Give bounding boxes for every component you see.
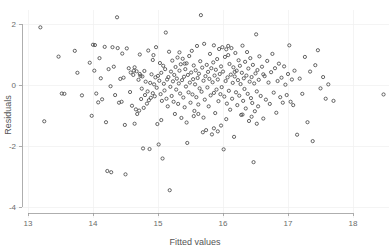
data-point <box>259 94 262 97</box>
data-point <box>173 112 176 115</box>
data-point <box>293 69 296 72</box>
y-tick-label: -2 <box>9 142 17 151</box>
x-tick-label: 17 <box>284 219 293 228</box>
data-point <box>238 94 241 97</box>
data-point <box>253 110 256 113</box>
data-point <box>246 92 249 95</box>
data-point <box>168 189 171 192</box>
data-point <box>164 31 167 34</box>
data-point <box>273 67 276 70</box>
data-point <box>179 63 182 66</box>
data-point <box>247 119 250 122</box>
data-point <box>76 71 79 74</box>
data-point <box>232 135 235 138</box>
data-point <box>215 88 218 91</box>
data-point <box>180 79 183 82</box>
data-point <box>160 71 163 74</box>
data-point <box>111 46 114 49</box>
data-point <box>177 102 180 105</box>
data-point <box>298 77 301 80</box>
data-point <box>197 112 200 115</box>
data-point <box>182 75 185 78</box>
data-point <box>324 97 327 100</box>
data-point <box>138 109 141 112</box>
data-point <box>137 78 140 81</box>
data-point <box>157 143 160 146</box>
data-point <box>223 55 226 58</box>
data-point <box>233 75 236 78</box>
data-point <box>257 105 260 108</box>
data-point <box>154 46 157 49</box>
data-point <box>112 65 115 68</box>
data-point <box>133 66 136 69</box>
data-point <box>177 82 180 85</box>
data-point <box>248 80 251 83</box>
data-point <box>234 91 237 94</box>
data-point <box>148 147 151 150</box>
data-point <box>216 130 219 133</box>
data-point <box>207 105 210 108</box>
data-point <box>145 102 148 105</box>
data-point <box>242 99 245 102</box>
data-point <box>152 54 155 57</box>
data-point <box>142 106 145 109</box>
data-point <box>179 92 182 95</box>
data-point <box>309 70 312 73</box>
data-point <box>270 71 273 74</box>
data-point <box>236 104 239 107</box>
data-point <box>226 76 229 79</box>
data-point <box>255 122 258 125</box>
data-point <box>185 121 188 124</box>
data-point <box>110 171 113 174</box>
data-point <box>256 68 259 71</box>
data-point <box>115 16 118 19</box>
data-point <box>271 52 274 55</box>
data-point <box>196 76 199 79</box>
data-point <box>212 61 215 64</box>
data-point <box>205 63 208 66</box>
data-point <box>57 55 60 58</box>
data-point <box>178 51 181 54</box>
data-point <box>174 65 177 68</box>
data-point <box>132 73 135 76</box>
x-tick-label: 15 <box>154 219 163 228</box>
x-axis-label: Fitted values <box>169 237 221 247</box>
data-point <box>80 94 83 97</box>
data-point <box>216 78 219 81</box>
data-point <box>206 70 209 73</box>
data-point <box>199 60 202 63</box>
data-point <box>156 122 159 125</box>
data-point <box>219 124 222 127</box>
data-point <box>212 127 215 130</box>
data-point <box>210 133 213 136</box>
data-point <box>124 173 127 176</box>
y-tick-label: 0 <box>12 81 17 90</box>
data-point <box>192 115 195 118</box>
data-point <box>153 83 156 86</box>
data-point <box>203 98 206 101</box>
data-point <box>140 87 143 90</box>
data-point <box>193 109 196 112</box>
data-point <box>190 49 193 52</box>
data-point <box>127 67 130 70</box>
data-point <box>272 91 275 94</box>
data-point <box>169 70 172 73</box>
data-point <box>221 46 224 49</box>
data-point <box>227 44 230 47</box>
x-tick-label: 14 <box>89 219 98 228</box>
data-point <box>258 55 261 58</box>
scatter-plot-figure: 131415161718 20-2-4 Fitted values Residu… <box>0 0 390 250</box>
data-point <box>149 81 152 84</box>
data-point <box>201 66 204 69</box>
data-point <box>175 77 178 80</box>
data-point <box>106 169 109 172</box>
data-point <box>279 96 282 99</box>
data-point <box>189 101 192 104</box>
data-point <box>200 90 203 93</box>
data-point <box>171 59 174 62</box>
data-point <box>214 111 217 114</box>
data-point <box>130 104 133 107</box>
data-point <box>216 57 219 60</box>
data-point <box>240 71 243 74</box>
data-point <box>204 75 207 78</box>
